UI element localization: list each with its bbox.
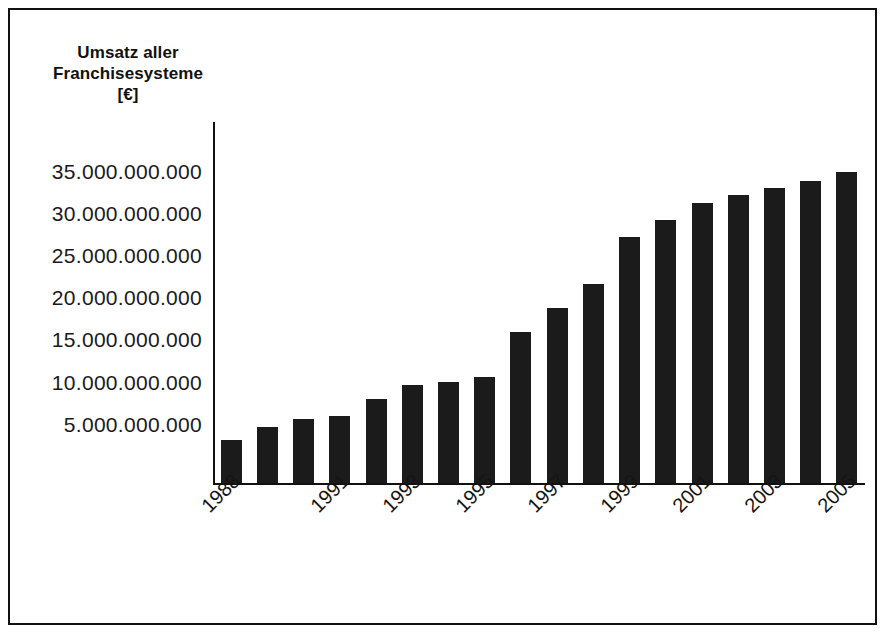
- bar-1989: [257, 427, 278, 483]
- bar-1992: [366, 399, 387, 483]
- y-axis-tick-35000000000: 35.000.000.000: [52, 160, 202, 184]
- bar-1999: [619, 237, 640, 483]
- y-axis-tick-15000000000: 15.000.000.000: [52, 328, 202, 352]
- bar-2005: [836, 172, 857, 483]
- y-axis-tick-5000000000: 5.000.000.000: [64, 413, 202, 437]
- chart-screenshot: Umsatz aller Franchisesysteme [€] 35.000…: [0, 0, 887, 635]
- y-axis-tick-25000000000: 25.000.000.000: [52, 244, 202, 268]
- bar-1994: [438, 382, 459, 483]
- bar-2003: [764, 188, 785, 483]
- bar-1995: [474, 377, 495, 483]
- y-axis-tick-10000000000: 10.000.000.000: [52, 371, 202, 395]
- bar-1993: [402, 385, 423, 483]
- bar-1996: [510, 332, 531, 483]
- bar-2000: [655, 220, 676, 483]
- bar-series: [213, 122, 865, 483]
- bar-1990: [293, 419, 314, 483]
- y-axis-tick-labels: 35.000.000.00030.000.000.00025.000.000.0…: [0, 0, 210, 635]
- bar-1997: [547, 308, 568, 483]
- y-axis-tick-30000000000: 30.000.000.000: [52, 202, 202, 226]
- bar-2001: [692, 203, 713, 483]
- y-axis-tick-20000000000: 20.000.000.000: [52, 286, 202, 310]
- bar-1998: [583, 284, 604, 483]
- bar-2002: [728, 195, 749, 483]
- bar-2004: [800, 181, 821, 483]
- x-axis-tick-labels: 198819911993199519971999200120032005: [213, 483, 865, 633]
